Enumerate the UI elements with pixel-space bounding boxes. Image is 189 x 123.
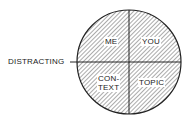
- quadrant-you-label: YOU: [141, 37, 161, 46]
- context-line-2: TEXT: [98, 83, 119, 92]
- quadrant-context-label: CON- TEXT: [97, 74, 120, 92]
- distracting-label: DISTRACTING: [8, 57, 64, 66]
- quadrant-topic-label: TOPIC: [138, 78, 165, 87]
- context-line-1: CON-: [98, 74, 119, 83]
- quadrant-me-label: ME: [104, 37, 118, 46]
